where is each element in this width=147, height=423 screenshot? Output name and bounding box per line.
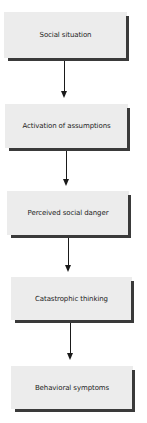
arrow-down-icon — [67, 353, 73, 360]
box-shadow-bottom — [8, 58, 129, 61]
node-social-situation: Social situation — [4, 12, 127, 58]
box-shadow-bottom — [15, 409, 135, 412]
node-label: Behavioral symptoms — [35, 384, 109, 392]
box-shadow-right — [128, 195, 131, 237]
box-shadow-right — [132, 370, 135, 411]
arrow-down-icon — [65, 265, 71, 272]
box-shadow-right — [127, 108, 130, 150]
arrow-4-line — [70, 323, 71, 353]
box-shadow-bottom — [9, 148, 130, 151]
arrow-2-line — [66, 151, 67, 179]
node-behavioral-symptoms: Behavioral symptoms — [11, 366, 133, 409]
box-shadow-right — [131, 281, 134, 322]
arrow-down-icon — [61, 91, 67, 98]
node-label: Perceived social danger — [28, 209, 109, 217]
node-catastrophic-thinking: Catastrophic thinking — [11, 277, 132, 320]
arrow-down-icon — [63, 179, 69, 186]
node-label: Social situation — [40, 31, 92, 39]
box-shadow-bottom — [11, 235, 131, 238]
box-shadow-bottom — [15, 320, 134, 323]
node-label: Catastrophic thinking — [35, 295, 108, 303]
arrow-1-line — [64, 61, 65, 91]
node-perceived-social-danger: Perceived social danger — [7, 191, 129, 235]
arrow-3-line — [68, 238, 69, 265]
box-shadow-right — [126, 16, 129, 60]
node-label: Activation of assumptions — [22, 122, 110, 130]
node-activation-of-assumptions: Activation of assumptions — [5, 104, 128, 148]
